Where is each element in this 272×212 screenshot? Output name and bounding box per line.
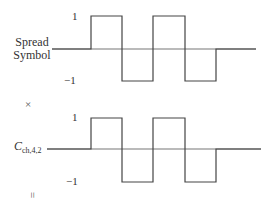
waveform-diagram	[0, 0, 272, 212]
bottom-waveform	[47, 118, 261, 182]
spread-symbol-label: Spread Symbol	[13, 36, 51, 62]
equals-operator: =	[27, 192, 39, 198]
bottom-tick-low: −1	[66, 175, 78, 187]
top-tick-high: 1	[72, 10, 78, 22]
top-waveform	[52, 16, 256, 81]
code-symbol: C	[14, 139, 22, 153]
channel-code-label: Cch,4,2	[14, 140, 42, 157]
multiply-operator: ×	[25, 98, 31, 110]
label-line-2: Symbol	[13, 49, 51, 62]
bottom-tick-high: 1	[72, 111, 78, 123]
bottom-signal	[47, 118, 261, 182]
top-tick-low: −1	[64, 74, 76, 86]
code-subscript: ch,4,2	[22, 146, 42, 155]
